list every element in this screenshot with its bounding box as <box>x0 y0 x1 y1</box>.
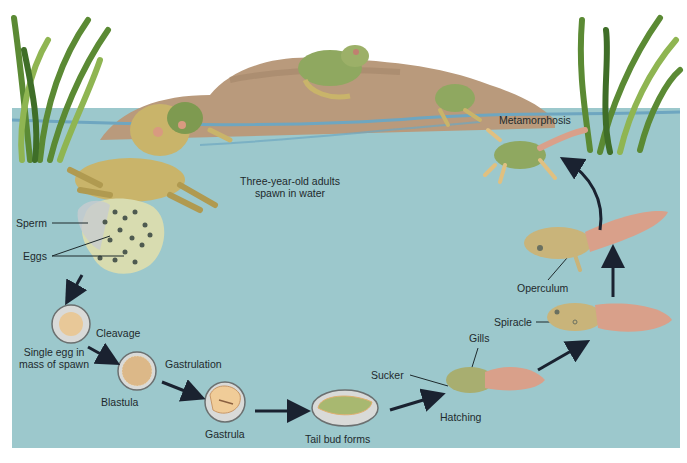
label-sperm: Sperm <box>16 217 47 229</box>
single-egg <box>52 305 90 343</box>
tail-bud-embryo <box>312 390 378 426</box>
label-gastrula: Gastrula <box>205 428 245 440</box>
label-tail-bud: Tail bud forms <box>305 433 370 445</box>
label-adults-line2: spawn in water <box>222 187 358 199</box>
frog-life-cycle-diagram: Three-year-old adults spawn in water Spe… <box>0 0 687 463</box>
gastrula <box>205 382 245 422</box>
illustration <box>0 0 687 463</box>
blastula <box>118 352 156 390</box>
label-blastula: Blastula <box>101 396 138 408</box>
reeds-right <box>581 18 680 152</box>
label-adults-line1: Three-year-old adults <box>222 175 358 187</box>
label-operculum: Operculum <box>517 282 568 294</box>
label-spiracle: Spiracle <box>494 316 532 328</box>
froglet-metamorphosis <box>485 130 585 182</box>
egg-mass <box>78 198 165 273</box>
label-gills: Gills <box>469 332 489 344</box>
label-gastrulation: Gastrulation <box>165 358 222 370</box>
label-single-egg-line1: Single egg in <box>15 346 93 358</box>
tadpole-spiracle <box>547 303 672 332</box>
label-eggs: Eggs <box>23 250 47 262</box>
label-hatching: Hatching <box>440 411 481 423</box>
reeds-left <box>14 18 108 160</box>
label-sucker: Sucker <box>371 369 404 381</box>
label-metamorphosis: Metamorphosis <box>499 114 571 126</box>
label-cleavage: Cleavage <box>96 327 140 339</box>
hatching-tadpole <box>446 367 545 393</box>
label-adults-spawn: Three-year-old adults spawn in water <box>222 175 358 199</box>
label-single-egg-line2: mass of spawn <box>15 358 93 370</box>
label-single-egg: Single egg in mass of spawn <box>15 346 93 370</box>
tadpole-with-legs <box>524 211 668 270</box>
